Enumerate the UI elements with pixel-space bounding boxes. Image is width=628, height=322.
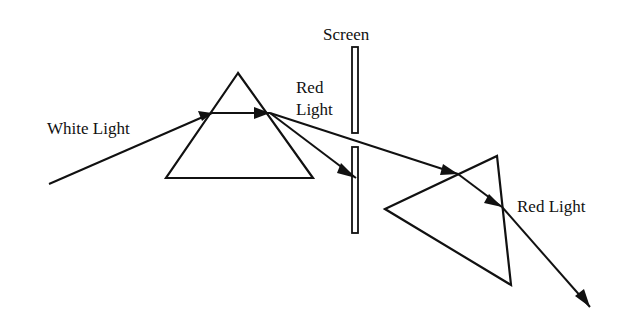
red-light-exit-ray xyxy=(502,207,590,307)
red-light-ray-through-slit xyxy=(270,113,458,174)
prism-1 xyxy=(166,73,313,178)
red-light-right-label: Red Light xyxy=(517,197,586,216)
prism-2-entry-arrowhead-icon xyxy=(440,164,458,175)
red-light-top-label-line2: Light xyxy=(296,100,333,119)
prism-1-internal-arrowhead-icon xyxy=(254,107,270,119)
screen-lower-bar xyxy=(352,147,358,233)
white-light-label: White Light xyxy=(47,119,130,138)
screen-upper-bar xyxy=(352,47,358,133)
prism-2 xyxy=(385,156,511,285)
screen-label: Screen xyxy=(323,25,370,44)
prism-dispersion-diagram: White Light Screen Red Light Red Light xyxy=(0,0,628,322)
red-light-top-label-line1: Red xyxy=(296,78,324,97)
